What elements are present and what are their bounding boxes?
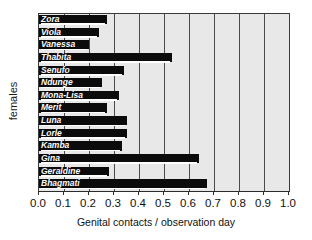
bar-row: Vanessa (39, 39, 289, 52)
bar-row: Thabita (39, 52, 289, 65)
y-axis-label: females (7, 66, 19, 136)
x-axis-tick (288, 191, 289, 195)
x-axis-tick (138, 191, 139, 195)
bar-row: Geraldine (39, 166, 289, 179)
bar-row: Bhagmati (39, 178, 289, 191)
bar-label-underline (41, 74, 122, 76)
x-axis-tick (238, 191, 239, 195)
x-axis-tick (88, 191, 89, 195)
bar-row: Luna (39, 115, 289, 128)
bar-series: ZoraViolaVanessaThabitaSenufoNdungeMona-… (39, 14, 289, 191)
bar-label-underline (41, 23, 105, 25)
bar-row: Senufo (39, 65, 289, 78)
bar-label-underline (41, 137, 125, 139)
x-axis-tick (263, 191, 264, 195)
bar-label-underline (41, 112, 105, 114)
bar-row: Merit (39, 102, 289, 115)
bar-label-underline (41, 150, 120, 152)
bar-row: Viola (39, 27, 289, 40)
horizontal-bar-chart: females ZoraViolaVanessaThabitaSenufoNdu… (0, 0, 312, 240)
bar-label-underline (41, 87, 100, 89)
bar-label-underline (41, 36, 97, 38)
x-axis-tick (213, 191, 214, 195)
bar-label-underline (41, 175, 107, 177)
bar-label-underline (41, 61, 170, 63)
bar-row: Zora (39, 14, 289, 27)
bar-row: Kamba (39, 140, 289, 153)
bar-label-underline (41, 125, 125, 127)
x-axis-tick (188, 191, 189, 195)
bar-row: Mona-Lisa (39, 90, 289, 103)
bar-label-underline (41, 162, 197, 164)
x-axis-tick (38, 191, 39, 195)
bar-label-underline (41, 188, 205, 190)
x-axis-tick (113, 191, 114, 195)
bar-label-underline (41, 99, 117, 101)
bar-row: Ndunge (39, 77, 289, 90)
plot-area: ZoraViolaVanessaThabitaSenufoNdungeMona-… (38, 13, 290, 192)
x-axis-tick (163, 191, 164, 195)
x-axis-label: Genital contacts / observation day (0, 216, 312, 228)
x-axis-tick (63, 191, 64, 195)
bar-row: Gina (39, 153, 289, 166)
x-axis-tick-label: 1.0 (273, 197, 303, 209)
bar-label-underline (41, 49, 87, 51)
bar-row: Lorle (39, 128, 289, 141)
